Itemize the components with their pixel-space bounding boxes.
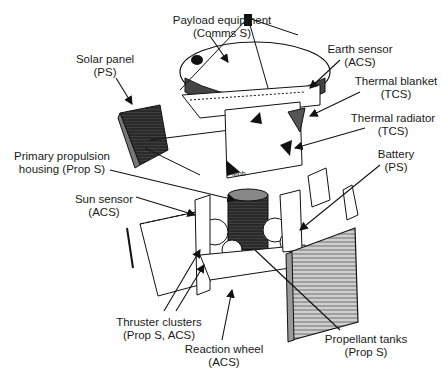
- label-line: (TCS): [355, 88, 437, 101]
- label-line: Sun sensor: [75, 193, 133, 206]
- label-thermal-radiator: Thermal radiator (TCS): [351, 112, 435, 138]
- label-line: (ACS): [185, 356, 264, 369]
- detached-panel-shape: [308, 168, 330, 207]
- label-line: (ACS): [327, 56, 392, 69]
- label-thruster-clusters: Thruster clusters (Prop S, ACS): [116, 316, 202, 342]
- spacecraft-diagram: Mbb: [0, 0, 443, 379]
- label-line: Primary propulsion: [14, 150, 110, 163]
- label-line: (Prop S, ACS): [116, 329, 202, 342]
- label-propellant-tanks: Propellant tanks (Prop S): [325, 333, 407, 359]
- detached-panel-shape: [343, 185, 358, 220]
- label-line: (TCS): [351, 125, 435, 138]
- label-line: (PS): [378, 161, 414, 174]
- label-line: Propellant tanks: [325, 333, 407, 346]
- label-earth-sensor: Earth sensor (ACS): [327, 43, 392, 69]
- label-battery: Battery (PS): [378, 148, 414, 174]
- label-line: Solar panel: [76, 53, 134, 66]
- label-line: (PS): [76, 66, 134, 79]
- label-line: Thermal radiator: [351, 112, 435, 125]
- label-line: Thermal blanket: [355, 75, 437, 88]
- label-line: housing (Prop S): [14, 163, 110, 176]
- label-line: Payload equipment: [173, 14, 271, 27]
- label-reaction-wheel: Reaction wheel (ACS): [185, 343, 264, 369]
- label-line: (Prop S): [325, 346, 407, 359]
- body-panel-shape: Mbb: [225, 102, 305, 178]
- label-solar-panel: Solar panel (PS): [76, 53, 134, 79]
- label-line: Reaction wheel: [185, 343, 264, 356]
- label-line: Earth sensor: [327, 43, 392, 56]
- label-payload-equipment: Payload equipment (Comms S): [173, 14, 271, 40]
- label-thermal-blanket: Thermal blanket (TCS): [355, 75, 437, 101]
- label-line: (Comms S): [173, 27, 271, 40]
- label-line: Thruster clusters: [116, 316, 202, 329]
- label-line: (ACS): [75, 206, 133, 219]
- label-primary-propulsion: Primary propulsion housing (Prop S): [14, 150, 110, 176]
- label-line: Battery: [378, 148, 414, 161]
- svg-text:Mbb: Mbb: [232, 170, 246, 177]
- label-sun-sensor: Sun sensor (ACS): [75, 193, 133, 219]
